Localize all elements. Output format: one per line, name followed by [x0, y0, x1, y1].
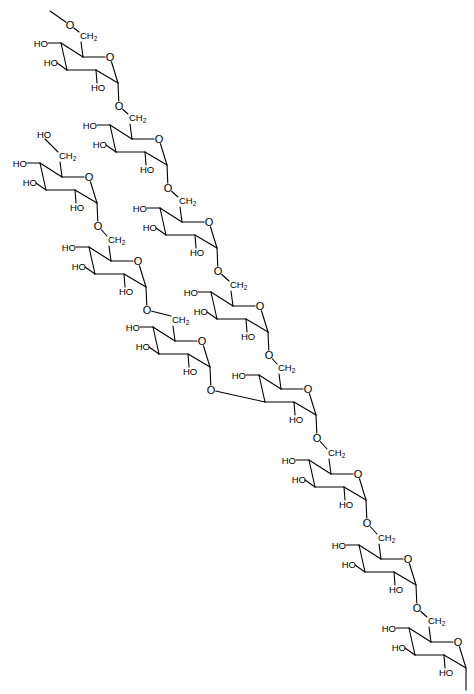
- branch-bond: [211, 390, 265, 402]
- hydroxyl-label: HO: [439, 667, 453, 678]
- hydroxyl-label: HO: [62, 242, 76, 253]
- hydroxyl-label: HO: [241, 331, 255, 342]
- c5-c6-bond: [329, 459, 331, 474]
- hydroxyl-label: HO: [392, 642, 406, 653]
- hydroxyl-label: HO: [342, 559, 356, 570]
- c5-c6-bond: [130, 124, 132, 139]
- hydroxyl-bond: [45, 139, 58, 152]
- hydroxyl-label: HO: [183, 366, 197, 377]
- glycosidic-oxygen-label: O: [164, 182, 173, 194]
- hydroxyl-label: HO: [44, 57, 58, 68]
- hydroxyl-label: HO: [190, 247, 204, 258]
- hydroxyl-label: HO: [194, 306, 208, 317]
- c5-c6-bond: [81, 42, 83, 57]
- hydroxyl-label: HO: [119, 286, 133, 297]
- ring-oxygen-label: O: [304, 383, 313, 395]
- methylene-label: CH2: [172, 314, 190, 326]
- hydroxyl-label: HO: [133, 203, 147, 214]
- ring-oxygen-label: O: [354, 468, 363, 480]
- glycosidic-oxygen-label: O: [265, 349, 274, 361]
- methylene-label: CH2: [108, 234, 126, 246]
- c5-c6-bond: [109, 246, 111, 261]
- ring-oxygen-label: O: [454, 636, 463, 648]
- c5-c6-bond: [279, 374, 281, 389]
- ring-bond: [309, 460, 331, 474]
- ring-bond: [61, 43, 83, 57]
- hydroxyl-label: HO: [382, 623, 396, 634]
- ring-bond: [110, 125, 132, 139]
- hydroxyl-label: HO: [93, 139, 107, 150]
- glycosidic-oxygen-label: O: [94, 220, 103, 232]
- hydroxyl-label: HO: [34, 38, 48, 49]
- hydroxyl-label: HO: [232, 370, 246, 381]
- hydroxyl-label: HO: [23, 177, 37, 188]
- c5-c6-bond: [180, 207, 182, 222]
- ring-bond: [40, 163, 62, 177]
- methylene-label: CH2: [328, 447, 346, 459]
- methylene-label: CH2: [129, 112, 147, 124]
- c5-c6-bond: [173, 326, 175, 341]
- ring-oxygen-label: O: [404, 553, 413, 565]
- glycosidic-oxygen-label: O: [115, 100, 124, 112]
- hydroxyl-label: HO: [83, 120, 97, 131]
- methylene-label: CH2: [378, 532, 396, 544]
- ring-oxygen-label: O: [85, 171, 94, 183]
- methylene-label: CH2: [59, 150, 77, 162]
- c5-c6-bond: [60, 162, 62, 177]
- c5-c6-bond: [379, 544, 381, 559]
- hydroxyl-label: HO: [72, 261, 86, 272]
- hydroxyl-label: HO: [282, 455, 296, 466]
- hydroxyl-label: HO: [37, 129, 51, 140]
- ring-oxygen-label: O: [106, 51, 115, 63]
- hydroxyl-label: HO: [140, 164, 154, 175]
- hydroxyl-label: HO: [13, 158, 27, 169]
- hydroxyl-label: HO: [184, 287, 198, 298]
- ring-bond: [89, 247, 111, 261]
- methylene-label: CH2: [428, 615, 446, 627]
- ring-bond: [160, 208, 182, 222]
- glycosidic-oxygen-label: O: [207, 384, 216, 396]
- glycosidic-oxygen-label: O: [143, 304, 152, 316]
- c5-c6-bond: [231, 291, 233, 306]
- ring-bond: [359, 545, 381, 559]
- glycosidic-oxygen-label: O: [413, 602, 422, 614]
- hydroxyl-label: HO: [289, 414, 303, 425]
- ring-bond: [153, 327, 175, 341]
- methylene-label: CH2: [80, 30, 98, 42]
- hydroxyl-label: HO: [143, 222, 157, 233]
- ring-bond: [211, 292, 233, 306]
- ring-oxygen-label: O: [155, 133, 164, 145]
- hydroxyl-label: HO: [332, 540, 346, 551]
- methylene-label: CH2: [230, 279, 248, 291]
- hydroxyl-label: HO: [126, 322, 140, 333]
- glycosidic-oxygen-label: O: [214, 265, 223, 277]
- glycosidic-oxygen-label: O: [313, 432, 322, 444]
- glucan-structure-diagram: HOHOHOCH2HOHOHOCH2HOHOHOCH2HOHOHOCH2HOHO…: [0, 0, 474, 694]
- methylene-label: CH2: [278, 362, 296, 374]
- hydroxyl-label: HO: [136, 341, 150, 352]
- ring-oxygen-label: O: [198, 335, 207, 347]
- ring-bond: [259, 375, 281, 389]
- ring-oxygen-label: O: [134, 255, 143, 267]
- c5-c6-bond: [429, 627, 431, 642]
- hydroxyl-label: HO: [292, 474, 306, 485]
- ring-bond: [259, 375, 265, 402]
- methylene-label: CH2: [179, 195, 197, 207]
- hydroxyl-label: HO: [389, 584, 403, 595]
- ring-oxygen-label: O: [256, 300, 265, 312]
- structure-canvas: HOHOHOCH2HOHOHOCH2HOHOHOCH2HOHOHOCH2HOHO…: [0, 0, 474, 694]
- ring-oxygen-label: O: [205, 216, 214, 228]
- ring-bond: [409, 628, 431, 642]
- hydroxyl-label: HO: [91, 82, 105, 93]
- glycosidic-oxygen-label: O: [66, 19, 75, 31]
- hydroxyl-label: HO: [339, 499, 353, 510]
- hydroxyl-label: HO: [70, 202, 84, 213]
- glycosidic-oxygen-label: O: [363, 517, 372, 529]
